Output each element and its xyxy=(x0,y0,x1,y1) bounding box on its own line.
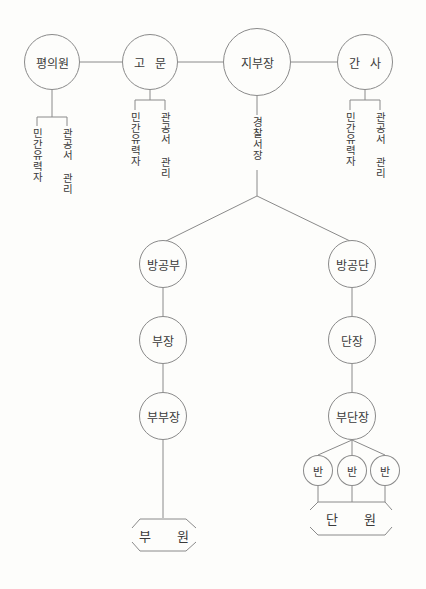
sub-label-official: 관공서 관리 xyxy=(374,112,386,179)
node-bubujang: 부부장 xyxy=(139,392,187,440)
sub-label-police-chief: 경찰서장 xyxy=(251,117,263,161)
sub-label-civilian: 민간유력자 xyxy=(31,128,43,183)
node-label: 반 xyxy=(347,463,357,479)
sub-label-civilian: 민간유력자 xyxy=(344,112,356,167)
node-gomun: 고 문 xyxy=(122,34,178,90)
sub-label-official: 관공서 관리 xyxy=(61,128,73,195)
node-label: 부장 xyxy=(152,332,174,349)
node-label: 단장 xyxy=(341,332,363,349)
sub-label-official: 관공서 관리 xyxy=(159,112,171,179)
node-danjang: 단장 xyxy=(328,316,376,364)
node-squad-2: 반 xyxy=(337,455,367,486)
node-bujang: 부장 xyxy=(139,316,187,364)
node-label: 평의원 xyxy=(36,54,69,71)
node-gansa: 간 사 xyxy=(337,34,393,90)
node-squad-1: 반 xyxy=(303,455,333,486)
members-label: 단 원 xyxy=(326,509,376,528)
node-jibujang: 지부장 xyxy=(223,28,291,96)
node-squad-3: 반 xyxy=(370,455,400,486)
node-budanjang: 부단장 xyxy=(328,392,376,440)
node-bangongbu: 방공부 xyxy=(139,240,187,288)
node-bangongdan: 방공단 xyxy=(328,240,376,288)
node-label: 방공부 xyxy=(147,256,180,273)
node-label: 부부장 xyxy=(147,408,180,425)
members-label: 부 원 xyxy=(139,526,189,545)
node-label: 고 문 xyxy=(134,54,166,71)
node-label: 부단장 xyxy=(336,408,369,425)
sub-label-civilian: 민간유력자 xyxy=(129,112,141,167)
node-label: 지부장 xyxy=(241,54,274,71)
node-label: 반 xyxy=(313,463,323,479)
members-box-buwon: 부 원 xyxy=(132,519,196,551)
node-label: 방공단 xyxy=(336,256,369,273)
node-pyeonguiwon: 평의원 xyxy=(24,34,80,90)
node-label: 반 xyxy=(380,463,390,479)
members-box-danwon: 단 원 xyxy=(310,502,392,535)
node-label: 간 사 xyxy=(349,54,381,71)
